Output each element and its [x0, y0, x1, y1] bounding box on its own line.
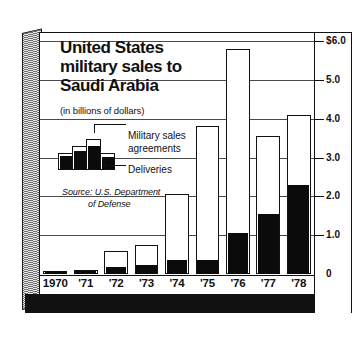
bar-deliveries-76: [228, 233, 249, 274]
chart-title: United States military sales to Saudi Ar…: [60, 38, 235, 95]
tick-stub-6.0: [315, 41, 324, 42]
legend-leader-deliveries-horizontal: [104, 165, 126, 166]
chart-subtitle: (in billions of dollars): [60, 105, 144, 116]
x-axis-label-71: '71: [70, 277, 100, 289]
bar-deliveries-74: [167, 260, 188, 274]
tick-stub-4.0: [315, 119, 324, 120]
bar-deliveries-78: [288, 185, 309, 274]
bar-deliveries-71: [75, 271, 96, 274]
bar-group-78: [287, 41, 311, 274]
bar-group-77: [256, 41, 280, 274]
chart-title-line-1: United States: [60, 38, 163, 57]
x-axis-label-76: '76: [223, 277, 253, 289]
x-axis-label-1970: 1970: [40, 277, 70, 289]
bar-deliveries-77: [258, 214, 279, 274]
legend-leader-agreements-vertical: [94, 124, 95, 133]
bar-deliveries-75: [197, 260, 218, 274]
x-axis-label-77: '77: [253, 277, 283, 289]
chart-legend: Military sales agreements Deliveries: [58, 122, 218, 174]
x-axis-label-74: '74: [162, 277, 192, 289]
tick-stub-3.0: [315, 158, 324, 159]
chart-title-line-3: Saudi Arabia: [60, 76, 159, 95]
tick-stub-5.0: [315, 80, 324, 81]
legend-label-agreements: Military sales agreements: [128, 130, 186, 155]
plot-right-rail: [351, 32, 352, 313]
y-axis-label-2.0: 2.0: [326, 190, 340, 201]
y-axis-label-5.0: 5.0: [326, 74, 340, 85]
y-axis-label-0: 0: [326, 268, 332, 279]
chart-source-note: Source: U.S. Department of Defense: [62, 186, 160, 210]
chart-3d-bottom-face: [25, 294, 315, 313]
bar-deliveries-72: [106, 267, 127, 274]
chart-figure: $6.05.04.03.02.01.00 1970'71'72'73'74'75…: [0, 0, 363, 343]
legend-label-agreements-line1: Military sales: [128, 130, 186, 141]
source-line-1: Source: U.S. Department: [62, 187, 160, 197]
legend-label-agreements-line2: agreements: [128, 143, 181, 154]
tick-stub-2.0: [315, 196, 324, 197]
tick-stub-1.0: [315, 235, 324, 236]
x-axis-label-78: '78: [284, 277, 314, 289]
bar-deliveries-73: [136, 265, 157, 274]
y-axis-label-6.0: $6.0: [326, 35, 346, 46]
x-axis-label-73: '73: [131, 277, 161, 289]
y-axis-label-4.0: 4.0: [326, 113, 340, 124]
legend-leader-agreements-horizontal: [94, 124, 126, 125]
legend-label-deliveries: Deliveries: [128, 164, 172, 175]
chart-title-line-2: military sales to: [60, 57, 182, 76]
y-axis-label-1.0: 1.0: [326, 229, 340, 240]
y-axis-label-3.0: 3.0: [326, 152, 340, 163]
bar-deliveries-1970: [45, 271, 66, 274]
x-axis-label-75: '75: [192, 277, 222, 289]
source-line-2: of Defense: [88, 198, 160, 210]
x-axis-label-72: '72: [101, 277, 131, 289]
